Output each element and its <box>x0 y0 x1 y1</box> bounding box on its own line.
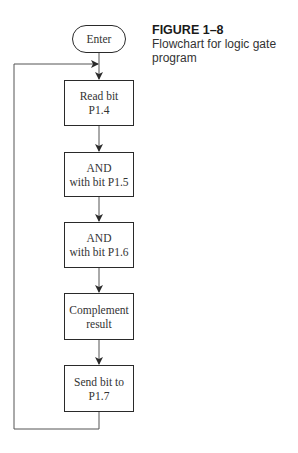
figure-canvas: Enter Read bit P1.4 AND with bit P1.5 AN… <box>0 0 298 453</box>
figure-number: FIGURE 1–8 <box>152 23 294 37</box>
step-and-p16: AND with bit P1.6 <box>64 222 134 268</box>
step-line1: Send bit to <box>74 375 124 389</box>
step-line2: P1.4 <box>80 103 119 117</box>
step-complement: Complement result <box>64 293 134 340</box>
step-and-p15: AND with bit P1.5 <box>64 152 134 197</box>
step-send-bit: Send bit to P1.7 <box>64 365 134 412</box>
flowchart-connectors <box>0 0 298 453</box>
step-line2: result <box>69 317 128 331</box>
start-terminal-enter: Enter <box>72 25 126 53</box>
figure-description: Flowchart for logic gate program <box>152 37 294 65</box>
step-line1: AND <box>69 161 128 175</box>
step-read-bit: Read bit P1.4 <box>64 80 134 126</box>
step-line1: AND <box>69 231 128 245</box>
step-line1: Complement <box>69 303 128 317</box>
step-line2: P1.7 <box>74 389 124 403</box>
step-line2: with bit P1.6 <box>69 245 128 259</box>
step-line1: Read bit <box>80 89 119 103</box>
start-label: Enter <box>87 32 112 46</box>
step-line2: with bit P1.5 <box>69 175 128 189</box>
figure-caption: FIGURE 1–8 Flowchart for logic gate prog… <box>152 23 294 65</box>
